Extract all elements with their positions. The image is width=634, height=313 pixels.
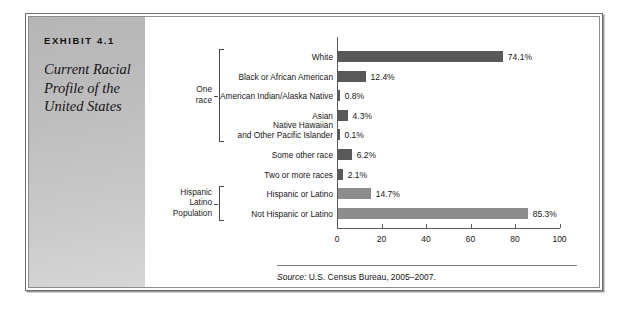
bar-chart-plot: 02040608010074.1%White12.4%Black or Afri… bbox=[145, 17, 599, 287]
x-axis-tick-label: 40 bbox=[421, 234, 430, 244]
bar bbox=[338, 90, 340, 101]
bar bbox=[338, 208, 528, 219]
category-label-line: Asian bbox=[145, 111, 333, 121]
category-label: Asian bbox=[145, 111, 333, 121]
group-label-line: One bbox=[145, 84, 212, 95]
category-label: Native Hawaiianand Other Pacific Islande… bbox=[145, 120, 333, 140]
bar bbox=[338, 51, 503, 62]
x-axis-tick bbox=[560, 224, 561, 228]
x-axis-tick bbox=[337, 224, 338, 228]
bar-value-label: 0.8% bbox=[345, 91, 364, 101]
group-label-line: Hispanic bbox=[145, 187, 212, 198]
group-bracket bbox=[219, 186, 224, 221]
group-bracket-stem bbox=[214, 96, 218, 97]
group-label-line: Population bbox=[145, 208, 212, 219]
source-label: Source: bbox=[277, 272, 306, 282]
group-bracket-stem bbox=[214, 204, 218, 205]
category-label-line: and Other Pacific Islander bbox=[145, 130, 333, 140]
bar bbox=[338, 71, 366, 82]
x-axis-tick-label: 20 bbox=[377, 234, 386, 244]
x-axis-tick bbox=[471, 224, 472, 228]
bar bbox=[338, 129, 340, 140]
x-axis-tick-label: 100 bbox=[552, 234, 566, 244]
source-note: Source: U.S. Census Bureau, 2005–2007. bbox=[277, 272, 436, 282]
category-label-line: Some other race bbox=[145, 150, 333, 160]
exhibit-number: EXHIBIT 4.1 bbox=[44, 35, 145, 46]
bar-value-label: 74.1% bbox=[508, 52, 532, 62]
group-bracket bbox=[219, 49, 224, 142]
bar-value-label: 2.1% bbox=[348, 170, 367, 180]
bar-value-label: 14.7% bbox=[376, 189, 400, 199]
bar bbox=[338, 149, 352, 160]
group-label-line: race bbox=[145, 95, 212, 106]
bar bbox=[338, 110, 348, 121]
source-detail: U.S. Census Bureau, 2005–2007. bbox=[306, 272, 435, 282]
category-label-line: Two or more races bbox=[145, 170, 333, 180]
category-label-line: Native Hawaiian bbox=[145, 120, 333, 130]
category-label-line: White bbox=[145, 52, 333, 62]
bar bbox=[338, 188, 371, 199]
x-axis-tick-label: 0 bbox=[335, 234, 340, 244]
group-label-line: Latino bbox=[145, 197, 212, 208]
x-axis-tick-label: 60 bbox=[466, 234, 475, 244]
group-label: Onerace bbox=[145, 84, 212, 105]
exhibit-frame: EXHIBIT 4.1 Current Racial Profile of th… bbox=[25, 13, 603, 291]
source-divider bbox=[277, 265, 577, 266]
category-label-line: Black or African American bbox=[145, 72, 333, 82]
bar-value-label: 12.4% bbox=[371, 72, 395, 82]
category-label: White bbox=[145, 52, 333, 62]
bar-value-label: 85.3% bbox=[533, 209, 557, 219]
category-label: Some other race bbox=[145, 150, 333, 160]
category-label: Black or African American bbox=[145, 72, 333, 82]
x-axis-tick bbox=[515, 224, 516, 228]
bar-value-label: 4.3% bbox=[353, 111, 372, 121]
x-axis-line bbox=[337, 228, 560, 229]
exhibit-title: Current Racial Profile of the United Sta… bbox=[44, 60, 140, 116]
bar-value-label: 0.1% bbox=[345, 130, 364, 140]
x-axis-tick-label: 80 bbox=[510, 234, 519, 244]
bar bbox=[338, 169, 343, 180]
x-axis-tick bbox=[382, 224, 383, 228]
exhibit-caption-panel: EXHIBIT 4.1 Current Racial Profile of th… bbox=[29, 17, 145, 287]
exhibit-inner-border: EXHIBIT 4.1 Current Racial Profile of th… bbox=[28, 16, 600, 288]
group-label: HispanicLatinoPopulation bbox=[145, 187, 212, 219]
category-label: Two or more races bbox=[145, 170, 333, 180]
x-axis-tick bbox=[426, 224, 427, 228]
chart-panel: 02040608010074.1%White12.4%Black or Afri… bbox=[145, 17, 599, 287]
bar-value-label: 6.2% bbox=[357, 150, 376, 160]
